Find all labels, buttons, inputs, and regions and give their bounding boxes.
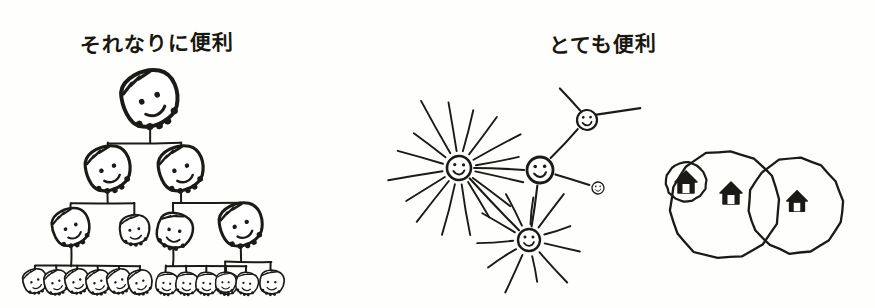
venn-house-right-icon (787, 191, 808, 212)
network-spoke (539, 252, 567, 282)
edge-bus (108, 143, 181, 144)
edge-bus (35, 266, 140, 267)
network-spoke (462, 184, 471, 235)
network-spoke (477, 241, 513, 243)
tree-node-level3-3 (152, 209, 196, 255)
network-node-node-small (592, 182, 604, 194)
network-spoke (545, 243, 580, 251)
tree-leaf-b-5 (233, 270, 260, 299)
network-link (551, 129, 578, 158)
network-spoke (544, 226, 570, 234)
edge-stem (173, 246, 174, 266)
edge-bus (225, 262, 271, 263)
network-link (555, 174, 589, 185)
network-spoke (539, 194, 564, 227)
network-spoke (398, 151, 443, 164)
tree-node-level2-1 (81, 141, 137, 199)
venn-diagram (666, 151, 843, 258)
network-link (593, 108, 640, 115)
hierarchy-diagram (20, 64, 285, 299)
network-node-hub-bottom (518, 229, 540, 251)
network-spoke (421, 101, 450, 153)
network-spoke (476, 157, 519, 165)
venn-house-circled-icon (675, 171, 697, 193)
network-spoke (532, 256, 537, 282)
tree-node-level3-4 (215, 198, 269, 254)
network-spoke (406, 177, 445, 201)
network-spoke (505, 255, 522, 293)
network-spoke (448, 102, 456, 151)
network-node-hub-left (446, 155, 471, 180)
network-spoke (417, 181, 449, 222)
tree-node-level3-1 (48, 204, 96, 253)
network-link (474, 168, 524, 170)
tree-node-level2-2 (154, 141, 210, 199)
tree-leaf-a-6 (126, 267, 156, 298)
network-spoke (388, 171, 442, 180)
network-spoke (488, 249, 516, 267)
network-spoke (442, 184, 455, 235)
network-spoke (482, 213, 515, 232)
network-node-node-center (527, 157, 554, 184)
network-diagram (388, 88, 640, 292)
tree-node-level3-2 (119, 214, 151, 248)
network-node-node-topright (577, 110, 598, 131)
network-spoke (463, 110, 473, 151)
diagram-svg (0, 0, 875, 308)
sketch-canvas: それなりに便利 とても便利 (0, 0, 875, 308)
venn-house-center-icon (720, 182, 742, 204)
tree-node-root-1 (115, 64, 186, 138)
tree-leaf-c-2 (258, 269, 285, 298)
network-link (560, 88, 580, 110)
network-spoke (475, 171, 523, 182)
